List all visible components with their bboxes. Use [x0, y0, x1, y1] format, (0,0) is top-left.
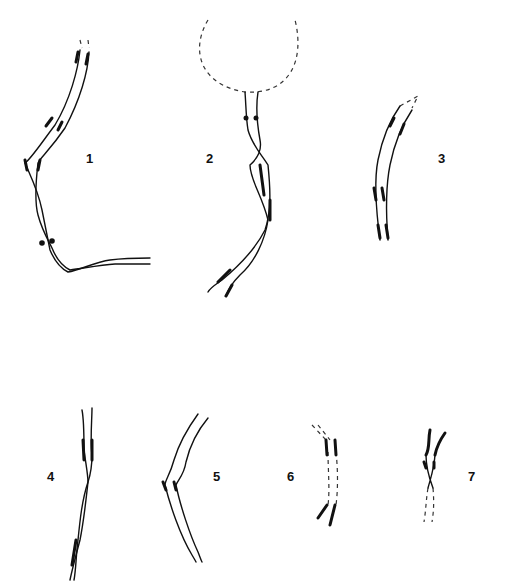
panel-5-drawing: [163, 414, 208, 562]
panel-4-drawing: [70, 408, 92, 580]
figure-drawings: [0, 0, 507, 587]
panel-4-label: 4: [47, 470, 54, 483]
chromosome-figure: 1 2 3 4 5 6 7: [0, 0, 507, 587]
panel-3-drawing: [374, 96, 418, 240]
panel-7-label: 7: [468, 470, 475, 483]
panel-7-drawing: [424, 430, 445, 522]
panel-2-drawing: [200, 20, 298, 296]
panel-2-label: 2: [206, 152, 213, 165]
panel-1-label: 1: [86, 152, 93, 165]
panel-6-label: 6: [287, 470, 294, 483]
panel-3-label: 3: [438, 152, 445, 165]
panel-5-label: 5: [213, 470, 220, 483]
panel-6-drawing: [312, 425, 338, 525]
